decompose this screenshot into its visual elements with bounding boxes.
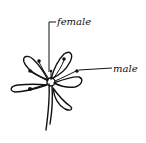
anther-2: [28, 69, 32, 73]
female-leader-line: [49, 22, 56, 72]
anther-1: [37, 59, 41, 63]
stem-secondary: [50, 86, 52, 124]
anther-4: [75, 69, 79, 73]
anther-5: [28, 87, 32, 91]
petal-right: [54, 77, 82, 87]
label-female: female: [56, 16, 91, 27]
stigma: [50, 70, 52, 72]
flower-diagram: female male: [0, 0, 146, 143]
petal-bottom: [53, 88, 72, 110]
label-male: male: [113, 63, 138, 74]
male-leader-line: [79, 68, 112, 70]
petal-left-upper: [24, 56, 48, 80]
anther-3: [62, 57, 66, 61]
stem: [46, 84, 49, 130]
